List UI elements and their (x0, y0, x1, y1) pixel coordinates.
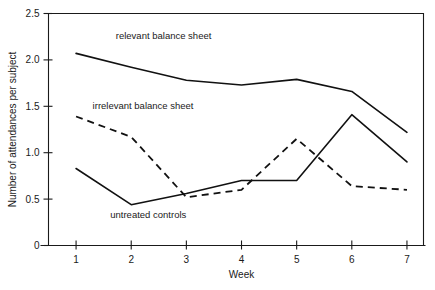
series-label-relevant-balance-sheet: relevant balance sheet (116, 30, 212, 41)
x-tick-label: 2 (128, 254, 134, 265)
x-axis-title: Week (229, 269, 255, 280)
y-axis-title: Number of attendances per subject (7, 51, 18, 207)
y-tick-label: 2.5 (26, 8, 40, 19)
x-tick-label: 4 (239, 254, 245, 265)
x-tick-label: 7 (404, 254, 410, 265)
x-tick-label: 6 (349, 254, 355, 265)
y-tick-label: 2.0 (26, 54, 40, 65)
y-tick-label: 1.0 (26, 147, 40, 158)
y-tick-label: 0 (34, 240, 40, 251)
x-axis: 1234567 (73, 241, 410, 265)
series-line-irrelevant-balance-sheet (76, 117, 407, 198)
series-label-untreated-controls: untreated controls (110, 209, 186, 220)
series-line-relevant-balance-sheet (76, 53, 407, 132)
series-label-irrelevant-balance-sheet: irrelevant balance sheet (93, 100, 194, 111)
x-tick-label: 1 (73, 254, 79, 265)
x-tick-label: 5 (294, 254, 300, 265)
plot-frame-path (41, 14, 426, 246)
plot-frame (41, 14, 426, 246)
series-line-untreated-controls (76, 115, 407, 205)
chart-container: 00.51.01.52.02.5 1234567 Number of atten… (0, 0, 435, 290)
series-lines (76, 53, 407, 204)
line-chart: 00.51.01.52.02.5 1234567 Number of atten… (0, 0, 435, 290)
x-tick-label: 3 (184, 254, 190, 265)
y-tick-label: 0.5 (26, 194, 40, 205)
y-tick-label: 1.5 (26, 101, 40, 112)
